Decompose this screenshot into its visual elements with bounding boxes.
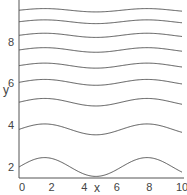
line-chart: 0246810 2468 x y (0, 0, 187, 195)
curve-line (19, 63, 182, 68)
x-tick-label: 8 (146, 181, 152, 193)
x-tick-label: 4 (81, 181, 87, 193)
curve-line (19, 48, 182, 53)
y-tick-label: 4 (8, 119, 14, 131)
x-tick-label: 0 (19, 181, 25, 193)
x-tick-label: 10 (176, 181, 187, 193)
curve-line (19, 33, 182, 37)
curve-line (19, 124, 182, 135)
y-tick-label: 8 (8, 36, 14, 48)
curve-line (19, 9, 182, 12)
curve-line (19, 158, 182, 177)
x-axis-label: x (94, 181, 100, 195)
x-tick-label: 6 (114, 181, 120, 193)
x-tick-labels: 0246810 (19, 181, 187, 193)
curve-line (19, 98, 182, 106)
curves-group (19, 9, 182, 177)
y-axis-label: y (3, 83, 9, 97)
curve-line (19, 79, 182, 85)
x-tick-label: 2 (49, 181, 55, 193)
y-tick-labels: 2468 (8, 36, 14, 173)
curve-line (19, 20, 182, 24)
y-tick-label: 2 (8, 161, 14, 173)
